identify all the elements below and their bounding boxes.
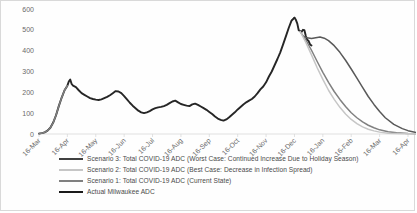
legend-swatch-line-icon (59, 191, 83, 193)
legend-swatch-line-icon (59, 158, 83, 160)
y-axis-tick-label: 500 (22, 26, 34, 33)
chart-container: 010020030040050060016-Mar16-Apr16-May16-… (0, 0, 415, 211)
legend-item-label: Actual Milwaukee ADC (87, 188, 155, 195)
y-axis-tick-label: 300 (22, 68, 34, 75)
legend-item[interactable]: Scenario 3: Total COVID-19 ADC (Worst Ca… (59, 153, 409, 164)
y-axis-tick-label: 100 (22, 110, 34, 117)
series-line (39, 18, 294, 134)
y-axis-tick-label: 0 (30, 131, 34, 138)
chart-legend: Scenario 3: Total COVID-19 ADC (Worst Ca… (59, 153, 409, 197)
series-line (294, 18, 311, 46)
legend-item[interactable]: Scenario 1: Total COVID-19 ADC (Current … (59, 175, 409, 186)
series-line (300, 32, 416, 135)
y-axis-tick-label: 200 (22, 89, 34, 96)
legend-item[interactable]: Actual Milwaukee ADC (59, 186, 409, 197)
series-line (39, 86, 67, 134)
legend-item-label: Scenario 2: Total COVID-19 ADC (Best Cas… (87, 166, 313, 173)
legend-swatch-line-icon (59, 180, 83, 182)
legend-item-label: Scenario 3: Total COVID-19 ADC (Worst Ca… (87, 155, 359, 162)
legend-item[interactable]: Scenario 2: Total COVID-19 ADC (Best Cas… (59, 164, 409, 175)
legend-swatch-line-icon (59, 169, 83, 171)
legend-item-label: Scenario 1: Total COVID-19 ADC (Current … (87, 177, 231, 184)
y-axis-tick-label: 400 (22, 47, 34, 54)
x-axis-tick-label: 16-Mar (21, 136, 42, 157)
y-axis-tick-label: 600 (22, 6, 34, 13)
